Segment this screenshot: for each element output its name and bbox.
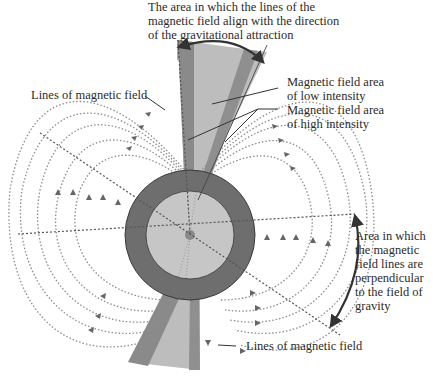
planet-body <box>125 170 255 300</box>
top-title-label: The area in which the lines of the magne… <box>148 0 339 42</box>
lines-bottom-label: Lines of magnetic field <box>246 339 362 353</box>
high-intensity-label: Magnetic field area of high intensity <box>287 103 384 131</box>
perpendicular-label: Area in which the magnetic field lines a… <box>355 229 426 313</box>
lines-left-label: Lines of magnetic field <box>31 88 147 102</box>
magnetic-field-diagram <box>0 0 439 386</box>
lower-cone <box>128 290 200 370</box>
low-intensity-label: Magnetic field area of low intensity <box>287 75 384 103</box>
